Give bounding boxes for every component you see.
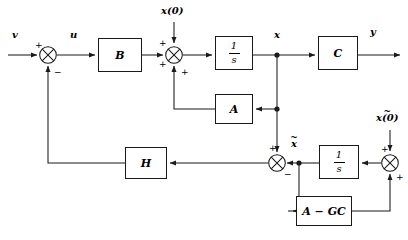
tilde-accent: ~ [290, 133, 298, 142]
block-diagram: B 1 s C A H 1 s A − GC [0, 0, 408, 240]
block-H-label: H [141, 157, 151, 170]
block-C-label: C [334, 47, 343, 60]
signal-label-x-tilde: ~ x [291, 139, 297, 149]
block-B-label: B [115, 49, 124, 62]
sign-plant-plus-top: + [159, 39, 167, 48]
signal-label-u: u [70, 30, 77, 40]
block-A-minus-GC-label: A − GC [302, 205, 346, 218]
fraction-numerator: 1 [334, 150, 344, 161]
tilde-accent-0: ~ [383, 107, 391, 116]
wire-AGC-to-estsum [352, 174, 390, 211]
fraction-1-over-s-estimator: 1 s [334, 150, 345, 174]
signal-label-x0: x(0) [161, 6, 183, 16]
sign-plant-plus-left: + [159, 60, 167, 69]
signal-label-x: x [274, 30, 280, 40]
sign-estimator-plus-top: + [381, 145, 389, 154]
node-x [273, 51, 281, 59]
summer-estimator [381, 154, 399, 172]
fraction-1-over-s: 1 s [229, 41, 240, 65]
signal-label-x-tilde-0: ~ x(0) [376, 113, 398, 123]
sign-error-minus: − [284, 170, 292, 179]
block-integrator-estimator: 1 s [319, 145, 359, 179]
summer-plant [165, 46, 183, 64]
wire-H-to-input-sum [48, 66, 125, 163]
signal-label-y: y [370, 27, 376, 37]
signal-label-v: v [12, 30, 18, 40]
fraction-denominator: s [229, 55, 238, 66]
tilde-group: ~ x [291, 139, 297, 149]
block-C: C [318, 36, 358, 70]
sign-error-plus: + [269, 144, 277, 153]
sign-input-minus: − [54, 68, 62, 77]
node-xtilde [295, 159, 303, 167]
block-integrator-plant: 1 s [215, 36, 253, 70]
tilde-group-0: ~ x(0) [376, 113, 398, 123]
block-A-label: A [230, 103, 239, 116]
block-H: H [125, 147, 167, 179]
sign-plant-plus-bottom: + [181, 68, 189, 77]
block-A: A [215, 94, 253, 124]
sign-input-plus: + [35, 41, 43, 50]
fraction-denominator: s [334, 164, 343, 175]
block-A-minus-GC: A − GC [296, 196, 352, 226]
fraction-numerator: 1 [229, 41, 239, 52]
sign-estimator-plus-bottom: + [396, 173, 404, 182]
block-B: B [98, 38, 142, 72]
node-a-tap [273, 105, 281, 113]
